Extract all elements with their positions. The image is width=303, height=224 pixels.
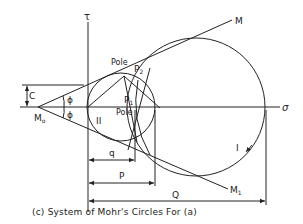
mohr-circles-diagram: τ σ M M1 Mo C ϕ ϕ Pole Pole P2 P1 I II q…: [0, 0, 303, 224]
label-M1: M1: [230, 185, 242, 196]
label-pole-lower: Pole: [116, 108, 133, 117]
label-P2: P2: [134, 64, 143, 75]
figure-caption: (c) System of Mohr's Circles For (a): [32, 207, 197, 217]
phi-arc-upper: [63, 96, 64, 107]
label-C: C: [29, 91, 35, 101]
label-phi-upper: ϕ: [67, 95, 73, 105]
label-pole-upper: Pole: [111, 58, 128, 67]
label-q: q: [109, 148, 115, 158]
label-circle-II: II: [96, 116, 101, 126]
label-P1: P1: [124, 95, 133, 106]
tau-label: τ: [84, 11, 90, 22]
label-M0: Mo: [34, 113, 46, 124]
phi-arc-lower: [63, 107, 64, 118]
label-Q: Q: [172, 190, 179, 200]
pole-line-1: [88, 76, 124, 107]
label-P: P: [119, 171, 125, 181]
label-phi-lower: ϕ: [67, 110, 73, 120]
sigma-label: σ: [282, 102, 289, 113]
label-M: M: [235, 16, 243, 26]
label-circle-I: I: [236, 143, 239, 153]
